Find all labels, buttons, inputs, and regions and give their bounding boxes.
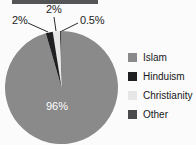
legend-item-hinduism[interactable]: Hinduism (128, 67, 196, 86)
legend-label-other: Other (143, 110, 168, 120)
legend-item-islam[interactable]: Islam (128, 48, 196, 67)
slice-label-islam: 96% (46, 100, 68, 112)
legend-swatch-christianity (128, 91, 137, 100)
pie-chart-figure: 2% 2% 0.5% 96% Islam Hinduism Christiani… (0, 0, 196, 145)
legend-swatch-other (128, 110, 137, 119)
legend-label-christianity: Christianity (143, 91, 192, 101)
chart-plot-area: 2% 2% 0.5% 96% (0, 0, 126, 145)
legend-label-islam: Islam (143, 53, 167, 63)
legend-swatch-islam (128, 53, 137, 62)
pie-graphic (5, 31, 118, 144)
legend-item-christianity[interactable]: Christianity (128, 86, 196, 105)
pie-svg (5, 31, 118, 144)
slice-label-other: 0.5% (80, 14, 104, 26)
legend-swatch-hinduism (128, 72, 137, 81)
slice-label-christianity: 2% (46, 3, 62, 15)
legend-item-other[interactable]: Other (128, 105, 196, 124)
legend-label-hinduism: Hinduism (143, 72, 185, 82)
slice-label-hinduism: 2% (12, 14, 28, 26)
chart-legend: Islam Hinduism Christianity Other (128, 48, 196, 124)
